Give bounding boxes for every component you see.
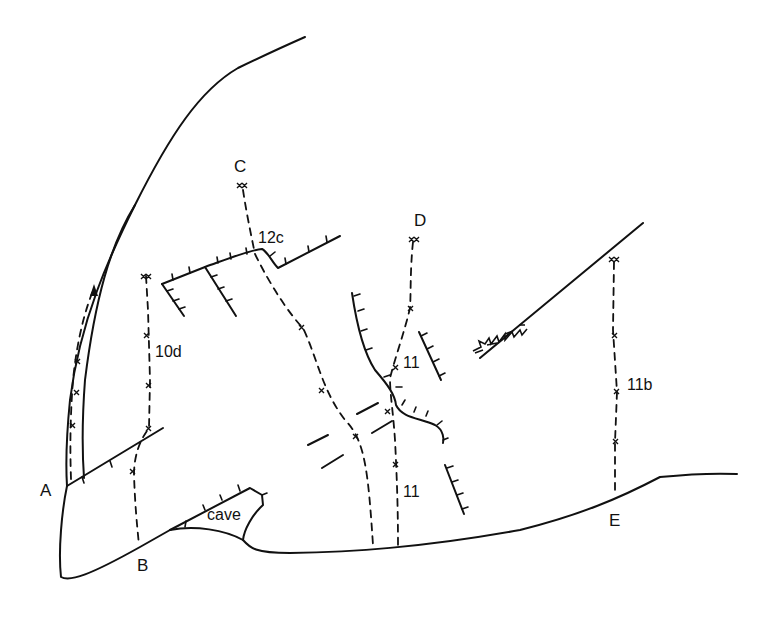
- grade-11b: 11b: [627, 376, 653, 393]
- grade-10d: 10d: [155, 343, 182, 360]
- crack-strokes: [308, 403, 392, 468]
- corner-d: [352, 293, 443, 443]
- route-e-line: [613, 262, 617, 492]
- roof-c: [162, 236, 340, 284]
- grade-11-upper: 11: [403, 354, 420, 371]
- grade-11-lower: 11: [403, 483, 420, 500]
- grade-12c: 12c: [258, 229, 284, 246]
- corner-mid: [205, 267, 236, 316]
- rock-base-left: [60, 486, 170, 578]
- label-start-b: B: [137, 556, 148, 575]
- route-b-line: [134, 276, 150, 545]
- topo-diagram: A B C D E 10d 12c 11 11 11b cave: [0, 0, 778, 629]
- label-start-d: D: [414, 211, 426, 230]
- rock-outline-top: [66, 37, 305, 486]
- roof-c-ticks: [172, 236, 327, 280]
- bolt-markers: [70, 306, 619, 474]
- label-start-a: A: [40, 481, 52, 500]
- label-cave: cave: [207, 506, 241, 523]
- corner-d-ticks: [354, 294, 448, 440]
- vegetation: [473, 325, 527, 353]
- label-start-e: E: [609, 511, 620, 530]
- label-start-c: C: [234, 157, 246, 176]
- corner-small-1: [419, 332, 441, 380]
- gully-line: [83, 205, 135, 478]
- corner-small-2: [445, 465, 464, 514]
